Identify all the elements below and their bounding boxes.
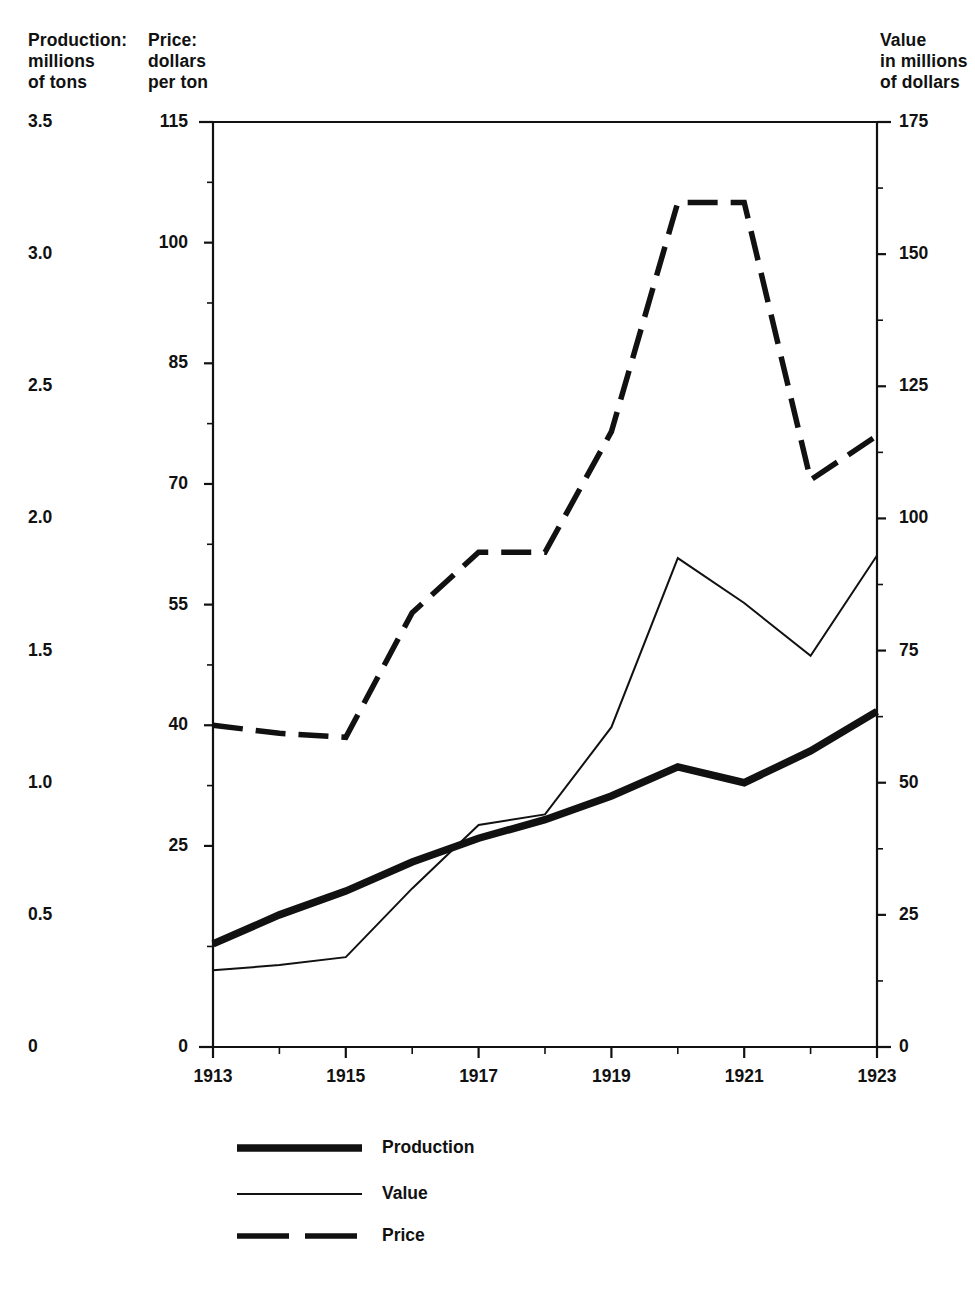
chart-figure: Production: millions of tons Price: doll…	[0, 0, 975, 1289]
production-tick-label-0: 0	[28, 1037, 108, 1055]
x-tick-label-1923: 1923	[832, 1067, 922, 1085]
x-tick-label-1919: 1919	[566, 1067, 656, 1085]
x-tick-label-1917: 1917	[434, 1067, 524, 1085]
legend-label-value: Value	[382, 1183, 428, 1204]
price-tick-label-85: 85	[60, 353, 188, 371]
production-tick-label-0.5: 0.5	[28, 905, 108, 923]
series-line-price	[213, 202, 877, 737]
production-tick-label-1.0: 1.0	[28, 773, 108, 791]
production-tick-label-2.0: 2.0	[28, 508, 108, 526]
price-tick-label-25: 25	[60, 836, 188, 854]
legend-label-production: Production	[382, 1137, 474, 1158]
price-tick-label-70: 70	[60, 474, 188, 492]
x-tick-label-1921: 1921	[699, 1067, 789, 1085]
x-tick-label-1915: 1915	[301, 1067, 391, 1085]
legend-label-price: Price	[382, 1225, 425, 1246]
value-axis-caption: Value in millions of dollars	[880, 30, 968, 93]
x-tick-label-1913: 1913	[168, 1067, 258, 1085]
value-tick-label-125: 125	[899, 376, 975, 394]
plot-area	[0, 0, 975, 1289]
value-tick-label-175: 175	[899, 112, 975, 130]
series-line-production	[213, 711, 877, 944]
value-tick-label-100: 100	[899, 508, 975, 526]
production-tick-label-1.5: 1.5	[28, 641, 108, 659]
production-axis-caption: Production: millions of tons	[28, 30, 127, 93]
price-axis-caption: Price: dollars per ton	[148, 30, 208, 93]
production-tick-label-3.0: 3.0	[28, 244, 108, 262]
production-tick-label-3.5: 3.5	[28, 112, 108, 130]
value-tick-label-50: 50	[899, 773, 975, 791]
value-tick-label-0: 0	[899, 1037, 975, 1055]
value-tick-label-25: 25	[899, 905, 975, 923]
value-tick-label-150: 150	[899, 244, 975, 262]
price-tick-label-55: 55	[60, 595, 188, 613]
price-tick-label-40: 40	[60, 715, 188, 733]
production-tick-label-2.5: 2.5	[28, 376, 108, 394]
value-tick-label-75: 75	[899, 641, 975, 659]
